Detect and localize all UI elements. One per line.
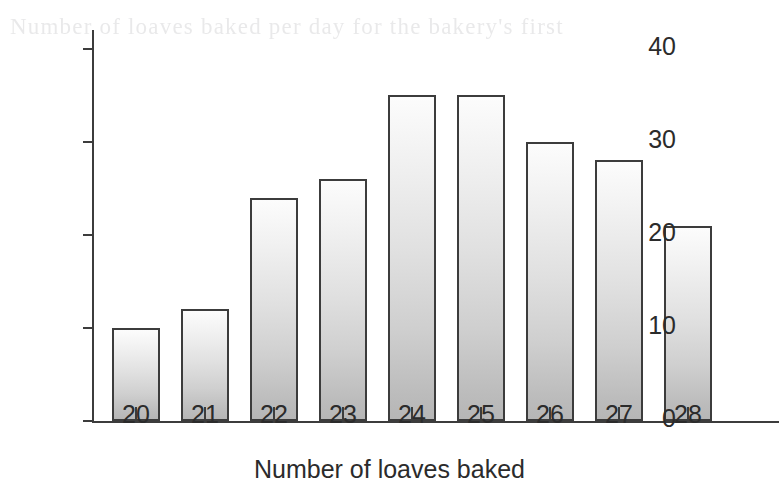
- y-axis-tick-label: 10: [648, 311, 676, 340]
- x-axis-tick-label: 24: [398, 400, 426, 429]
- bar: [388, 95, 436, 421]
- y-axis-tick: [83, 48, 94, 50]
- bar: [595, 160, 643, 421]
- x-axis-tick-label: 20: [122, 400, 150, 429]
- x-axis-title: Number of loaves baked: [0, 455, 779, 484]
- x-axis-tick-label: 21: [191, 400, 219, 429]
- y-axis-tick: [83, 327, 94, 329]
- x-axis-tick-label: 28: [674, 400, 702, 429]
- x-axis-tick-label: 25: [467, 400, 495, 429]
- chart-figure: Number of loaves baked per day for the b…: [0, 0, 779, 497]
- bar: [250, 198, 298, 421]
- y-axis-tick: [83, 141, 94, 143]
- y-axis-tick: [83, 420, 94, 422]
- y-axis-tick-label: 20: [648, 218, 676, 247]
- bar: [319, 179, 367, 421]
- x-axis-tick-label: 26: [536, 400, 564, 429]
- x-axis-tick-label: 27: [605, 400, 633, 429]
- bar: [457, 95, 505, 421]
- bar: [526, 142, 574, 421]
- y-axis-tick-label: 30: [648, 125, 676, 154]
- x-axis-tick-label: 22: [260, 400, 288, 429]
- y-axis-tick: [83, 234, 94, 236]
- y-axis-tick-label: 40: [648, 32, 676, 61]
- x-axis-tick-label: 23: [329, 400, 357, 429]
